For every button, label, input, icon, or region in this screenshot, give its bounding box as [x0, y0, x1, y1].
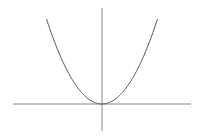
parabola-plot: [0, 0, 200, 139]
